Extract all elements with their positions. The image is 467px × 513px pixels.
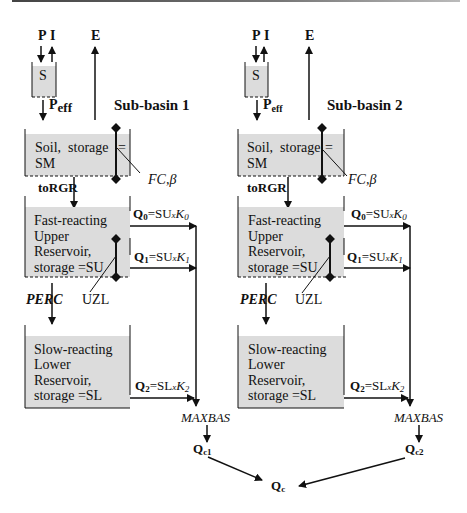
soil-box-line1: Soil, storage bbox=[35, 140, 109, 155]
upper-box-line: Reservoir, bbox=[34, 244, 91, 259]
lower-reservoir-box: Slow-reacting Lower Reservoir, storage =… bbox=[25, 325, 130, 408]
total-outflow-label: Qc bbox=[271, 478, 285, 494]
subbasin-title: Sub-basin 1 bbox=[114, 97, 189, 113]
q1-label: Q1=SUxK1 bbox=[134, 249, 190, 265]
q0-label: Q0=SUxK0 bbox=[133, 206, 189, 222]
subbasin-title: Sub-basin 2 bbox=[327, 97, 402, 113]
evap-label: E bbox=[305, 28, 314, 43]
q2-label: Q2=SLxK2 bbox=[350, 378, 405, 394]
soil-box-line1: Soil, storage bbox=[247, 140, 321, 155]
upper-box-line: Reservoir, bbox=[248, 244, 305, 259]
peff-label: Peff bbox=[49, 97, 73, 115]
outflow-arrow-icon bbox=[299, 458, 405, 486]
uzl-label: UZL bbox=[82, 292, 109, 307]
lower-box-line: Lower bbox=[34, 357, 71, 372]
subbasin-1: P I S Peff E Sub-basin 1 Soil, storage =… bbox=[25, 28, 262, 480]
lower-reservoir-box: Slow-reacting Lower Reservoir, storage =… bbox=[238, 325, 344, 408]
lower-box-line: Reservoir, bbox=[248, 373, 305, 388]
interception-label: I bbox=[264, 28, 269, 43]
precip-label: P bbox=[252, 28, 261, 43]
recharge-label: toRGR bbox=[38, 180, 78, 195]
soil-params-label: FC,β bbox=[347, 172, 376, 187]
recharge-label: toRGR bbox=[247, 180, 287, 195]
soil-box: Soil, storage = SM bbox=[25, 129, 130, 176]
hbv-diagram: P I S Peff E Sub-basin 1 Soil, storage =… bbox=[0, 0, 467, 513]
snow-box-label: S bbox=[39, 68, 47, 83]
q2-label: Q2=SLxK2 bbox=[135, 378, 190, 394]
diamond-icon bbox=[111, 123, 121, 133]
lower-box-line: storage =SL bbox=[248, 388, 316, 403]
evap-label: E bbox=[91, 28, 100, 43]
upper-box-line: Fast-reacting bbox=[34, 213, 107, 228]
routing-label: MAXBAS bbox=[180, 410, 231, 425]
upper-box-line: storage =SU bbox=[34, 260, 104, 275]
outflow-arrow-icon bbox=[208, 457, 262, 480]
outflow-label: Qc1 bbox=[193, 441, 212, 457]
perc-label: PERC bbox=[26, 292, 63, 307]
soil-params-label: FC,β bbox=[147, 172, 176, 187]
upper-box-line: Fast-reacting bbox=[248, 213, 321, 228]
soil-box-line2: SM bbox=[35, 156, 56, 171]
uzl-label: UZL bbox=[295, 292, 322, 307]
peff-label: Peff bbox=[263, 97, 283, 114]
q0-label: Q0=SUxK0 bbox=[351, 206, 407, 222]
lower-box-line: Slow-reacting bbox=[248, 342, 327, 357]
upper-box-line: Upper bbox=[248, 229, 283, 244]
interception-label: I bbox=[50, 28, 55, 43]
lower-box-line: Slow-reacting bbox=[34, 342, 113, 357]
routing-label: MAXBAS bbox=[393, 410, 444, 425]
q1-label: Q1=SUxK1 bbox=[347, 249, 403, 265]
precip-label: P bbox=[38, 28, 47, 43]
soil-box-line2: SM bbox=[247, 156, 268, 171]
lower-box-line: Reservoir, bbox=[34, 373, 91, 388]
perc-label: PERC bbox=[240, 292, 277, 307]
diamond-icon bbox=[317, 123, 327, 133]
snow-box: S bbox=[245, 62, 268, 97]
upper-box-line: storage =SU bbox=[248, 260, 318, 275]
snow-box-label: S bbox=[252, 68, 260, 83]
snow-box: S bbox=[32, 62, 56, 97]
soil-box: Soil, storage = SM bbox=[238, 129, 344, 176]
lower-box-line: Lower bbox=[248, 357, 285, 372]
outflow-label: Qc2 bbox=[405, 441, 424, 457]
upper-box-line: Upper bbox=[34, 229, 69, 244]
subbasin-2: P I S Peff E Sub-basin 2 Soil, storage =… bbox=[238, 28, 444, 486]
lower-box-line: storage =SL bbox=[34, 388, 102, 403]
